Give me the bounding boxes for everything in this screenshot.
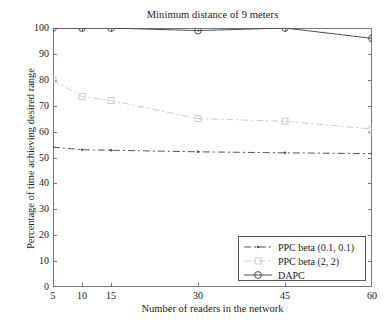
x-tick-label: 60 [367, 291, 377, 301]
data-point-marker [81, 148, 84, 151]
series-line [53, 147, 372, 153]
x-tick-label: 45 [280, 291, 290, 301]
series-2 [53, 77, 372, 132]
legend-item-label: DAPC [278, 270, 305, 281]
data-point-marker [257, 246, 260, 249]
data-point-marker [53, 146, 54, 149]
data-point-marker [110, 149, 113, 152]
data-point-marker [284, 152, 287, 155]
series-line [53, 80, 372, 129]
x-tick-label: 30 [193, 291, 203, 301]
series-3 [53, 28, 372, 42]
legend-item-label: PPC beta (2, 2) [278, 256, 339, 268]
plot-area: PPC beta (0.1, 0.1)PPC beta (2, 2)DAPC [53, 28, 372, 287]
legend: PPC beta (0.1, 0.1)PPC beta (2, 2)DAPC [239, 237, 366, 281]
x-tick-label: 5 [51, 291, 56, 301]
chart-figure: Minimum distance of 9 meters Percentage … [0, 0, 388, 326]
data-point-marker [197, 151, 200, 154]
series-line [53, 28, 372, 38]
x-tick-label: 10 [77, 291, 87, 301]
chart-canvas: PPC beta (0.1, 0.1)PPC beta (2, 2)DAPC [53, 28, 372, 287]
series-1 [53, 146, 372, 155]
x-tick-label: 15 [106, 291, 116, 301]
data-point-marker [371, 152, 372, 155]
legend-item-label: PPC beta (0.1, 0.1) [278, 242, 354, 254]
